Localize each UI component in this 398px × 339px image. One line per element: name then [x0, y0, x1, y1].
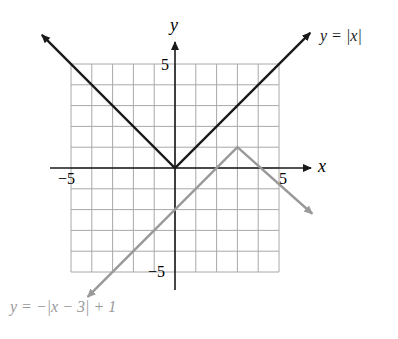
x-tick-5: 5: [279, 170, 287, 188]
y-tick-neg5: −5: [148, 263, 165, 281]
equation-neg-abs-shift: y = −|x − 3| + 1: [10, 298, 116, 316]
x-axis-label: x: [318, 156, 326, 177]
x-tick-neg5: −5: [58, 170, 75, 188]
equation-abs-x: y = |x|: [320, 27, 362, 45]
series-abs-x: [42, 33, 310, 168]
y-tick-5: 5: [161, 56, 169, 74]
axes: [50, 42, 311, 290]
y-axis-label: y: [170, 15, 178, 36]
